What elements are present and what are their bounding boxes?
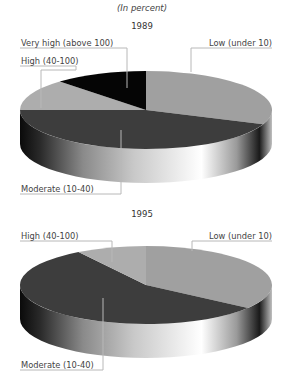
label-1989-moderate: Moderate (10-40) (21, 184, 94, 194)
label-1989-very-high: Very high (above 100) (21, 38, 113, 48)
pie-1995 (20, 246, 272, 358)
label-1995-moderate: Moderate (10-40) (21, 360, 94, 370)
label-1989-low: Low (under 10) (209, 38, 272, 48)
label-1995-low: Low (under 10) (209, 231, 272, 241)
pie-1989 (20, 71, 272, 183)
label-1989-high: High (40-100) (21, 56, 79, 66)
label-1995-high: High (40-100) (21, 231, 79, 241)
